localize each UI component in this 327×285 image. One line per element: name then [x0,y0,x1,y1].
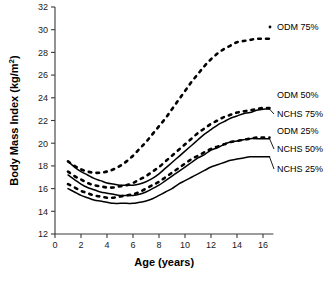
y-tick-label: 28 [38,48,48,58]
series-line-odm-25 [68,137,270,197]
y-axis-group: 1214161820222426283032 [38,2,55,239]
bmi-growth-chart: 1214161820222426283032 0246810121416 ODM… [0,0,327,285]
y-axis-title-close: ) [8,55,20,59]
y-axis-ticks: 1214161820222426283032 [38,2,55,239]
x-tick-label: 8 [156,240,161,250]
legend-dot-marker-icon [269,26,272,29]
leader-lines-group [270,109,275,169]
x-tick-label: 2 [78,240,83,250]
legend-label-nchs-25: NCHS 25% [277,164,323,174]
x-tick-label: 6 [130,240,135,250]
y-tick-label: 24 [38,93,48,103]
leader-line [270,139,275,149]
data-series-group [68,39,270,204]
y-axis-title-base: Body Mass Index (kg/m [8,63,20,185]
y-tick-label: 30 [38,25,48,35]
x-tick-label: 4 [104,240,109,250]
y-tick-label: 14 [38,207,48,217]
y-tick-label: 20 [38,139,48,149]
legend-label-odm-50: ODM 50% [277,90,319,100]
y-tick-label: 32 [38,2,48,12]
legend-label-nchs-50: NCHS 50% [277,144,323,154]
leader-line [270,109,275,114]
svg-text:Body Mass Index (kg/m2): Body Mass Index (kg/m2) [7,55,20,186]
x-axis-title: Age (years) [134,256,194,268]
chart-canvas: 1214161820222426283032 0246810121416 ODM… [0,0,327,285]
y-tick-label: 26 [38,70,48,80]
legend-label-odm-75: ODM 75% [277,22,319,32]
x-axis-ticks: 0246810121416 [52,234,268,250]
x-tick-label: 14 [232,240,242,250]
y-tick-label: 18 [38,161,48,171]
x-tick-label: 16 [258,240,268,250]
x-axis-group: 0246810121416 [52,234,273,250]
leader-line [270,157,275,169]
x-tick-label: 10 [180,240,190,250]
legend-label-nchs-75: NCHS 75% [277,109,323,119]
y-tick-label: 12 [38,229,48,239]
x-tick-label: 0 [52,240,57,250]
y-tick-label: 22 [38,116,48,126]
x-tick-label: 12 [206,240,216,250]
y-axis-title: Body Mass Index (kg/m2) [7,55,20,186]
series-legend: ODM 75%ODM 50%NCHS 75%ODM 25%NCHS 50%NCH… [269,22,323,174]
legend-label-odm-25: ODM 25% [277,126,319,136]
series-line-odm-75 [68,39,270,173]
y-tick-label: 16 [38,184,48,194]
